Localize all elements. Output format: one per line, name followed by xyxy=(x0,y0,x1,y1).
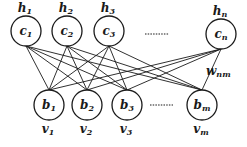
edge-c2-bm xyxy=(67,46,202,90)
edge-c3-b2 xyxy=(87,46,109,90)
bipartite-diagram: c1c2c3cnb1b2b3bm h1h2h3hnv1v2v3vm wnm xyxy=(0,0,247,147)
node-c2: c2 xyxy=(52,16,82,46)
weight-label: wnm xyxy=(206,64,231,79)
edge-c3-bm xyxy=(109,46,202,90)
node-b1: b1 xyxy=(34,90,64,120)
edge-cn-b1 xyxy=(49,49,221,90)
outer-label-v3: v3 xyxy=(120,122,133,137)
outer-label-h1: h1 xyxy=(18,1,32,16)
edge-cn-b2 xyxy=(87,49,221,90)
edge-c1-bm xyxy=(26,46,202,90)
outer-label-vm: vm xyxy=(193,122,208,137)
node-c3: c3 xyxy=(94,16,124,46)
node-cn: cn xyxy=(206,19,236,49)
outer-label-h2: h2 xyxy=(59,1,74,16)
outer-label-v1: v1 xyxy=(42,122,55,137)
node-b3: b3 xyxy=(112,90,142,120)
edges-group xyxy=(26,46,221,90)
edge-c1-b1 xyxy=(26,46,49,90)
outer-label-hn: hn xyxy=(213,4,228,19)
node-c1: c1 xyxy=(11,16,41,46)
node-b2: b2 xyxy=(72,90,102,120)
nodes-group: c1c2c3cnb1b2b3bm xyxy=(11,16,236,120)
outer-label-v2: v2 xyxy=(80,122,93,137)
node-bm: bm xyxy=(187,90,217,120)
outer-label-h3: h3 xyxy=(101,1,116,16)
